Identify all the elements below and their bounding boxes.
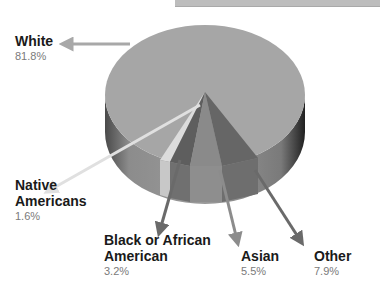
label-asian: Asian 5.5% <box>241 248 279 278</box>
label-white: White 81.8% <box>15 33 53 63</box>
label-other: Other 7.9% <box>314 248 351 278</box>
label-black-african-american: Black or African American 3.2% <box>104 232 211 278</box>
label-native-americans: Native Americans 1.6% <box>15 177 87 223</box>
